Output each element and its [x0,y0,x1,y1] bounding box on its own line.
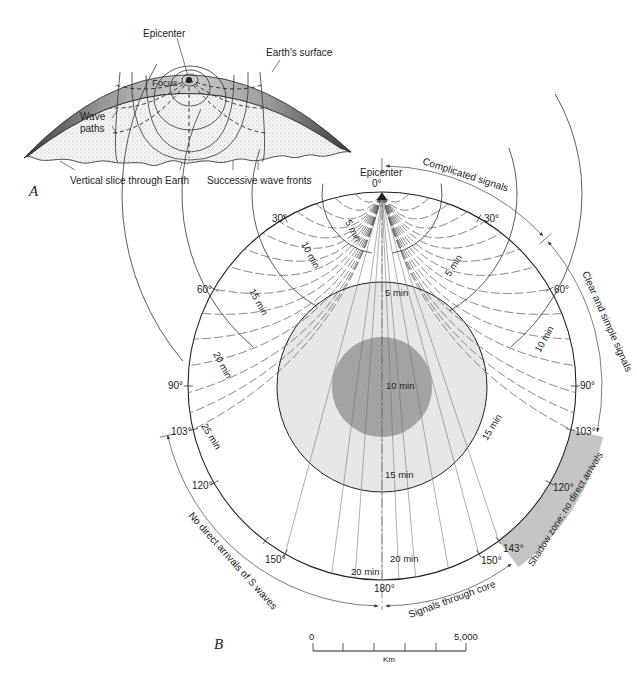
time-label-bottom-20a: 20 min [390,553,419,564]
degree-label-60-right: 60° [554,284,569,295]
degree-label-103-right: 103° [575,426,596,437]
wave-paths-label-line2: paths [80,123,104,134]
clear-simple-signals-label: Clear and simple signals [580,269,634,373]
earth-interior [28,93,351,165]
degree-label-180: 180° [374,583,395,594]
scale-unit-label: Km [383,655,395,664]
epicenter-label-a: Epicenter [143,28,186,39]
scale-max-label: 5,000 [454,631,478,642]
scale-bar: 0 5,000 Km [309,631,478,664]
focus-label: Focus [152,77,178,88]
time-label-left-20: 20 min [211,350,234,380]
time-label-core-15: 15 min [385,469,414,480]
panel-a-earth-slice: Epicenter Earth's surface Focus Wave pat… [24,28,351,199]
epicenter-label-b: Epicenter [360,167,403,178]
wave-fronts-label: Successive wave fronts [207,175,312,186]
time-label-core-10: 10 min [386,380,415,391]
focus-point [186,77,192,83]
degree-label-103-left: 103° [171,426,192,437]
panel-b-label: B [214,636,223,652]
time-label-right-10: 10 min [532,324,556,354]
time-label-core-5: 5 min [385,287,408,298]
complicated-signals-label: Complicated signals [421,155,510,193]
vertical-slice-label: Vertical slice through Earth [70,175,189,186]
degree-label-90-right: 90° [580,380,595,391]
degree-label-150-right: 150° [481,555,502,566]
time-label-left-5: 5 min [343,218,364,244]
degree-label-90-left: 90° [168,380,183,391]
earth-surface-label: Earth's surface [266,47,333,58]
time-label-bottom-20b: 20 min [351,566,380,577]
degree-label-120-left: 120° [192,480,213,491]
degree-label-60-left: 60° [197,284,212,295]
degree-label-143: 143° [503,543,524,554]
wave-paths-label-line1: Wave [80,111,106,122]
panel-a-label: A [28,183,39,199]
degree-label-150-left: 150° [265,554,286,565]
time-label-right-5: 5 min [442,253,464,279]
seismic-wave-diagram: Epicenter Earth's surface Focus Wave pat… [0,0,637,679]
scale-min-label: 0 [309,631,314,642]
epicenter-marker [377,192,387,200]
degree-label-30-right: 30° [484,213,499,224]
time-label-left-25: 25 min [199,421,223,451]
time-label-left-10: 10 min [299,240,322,270]
degree-label-30-left: 30° [272,213,287,224]
degree-label-0: 0° [372,178,382,189]
signals-through-core-label: Signals through core [407,578,497,620]
